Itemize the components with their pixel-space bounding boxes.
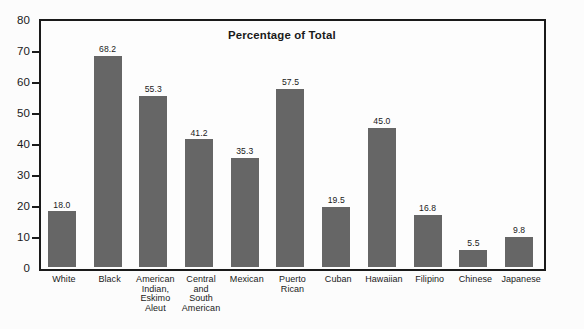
bar-group: 57.5 [268,19,314,267]
bar [322,207,350,267]
bar-value-label: 57.5 [282,77,299,87]
bar-value-label: 35.3 [236,146,253,156]
plot-area: 18.068.255.341.235.357.519.545.016.85.59… [39,19,546,271]
bar [414,215,442,267]
bar-value-label: 68.2 [99,44,116,54]
bar-value-label: 18.0 [53,200,70,210]
bar [139,96,167,267]
chart-title: Percentage of Total [228,29,336,41]
bar-group: 19.5 [313,19,359,267]
bar-group: 45.0 [359,19,405,267]
y-axis-tick-mark [32,175,39,177]
y-axis-tick-mark [32,113,39,115]
y-axis-tick-label: 0 [24,262,31,274]
bar-group: 18.0 [39,19,85,267]
x-axis-category-label: Japanese [492,275,550,285]
y-axis-tick-mark [32,82,39,84]
x-axis-labels: WhiteBlackAmericanIndian,EskimoAleutCent… [41,275,544,329]
y-axis: 01020304050607080 [0,19,39,271]
bar [276,89,304,267]
bars-layer: 18.068.255.341.235.357.519.545.016.85.59… [39,19,542,267]
y-axis-tick-label: 40 [17,138,30,150]
bar-value-label: 41.2 [190,128,207,138]
bar-value-label: 19.5 [328,195,345,205]
y-axis-tick-label: 50 [17,107,30,119]
bar-value-label: 9.8 [513,225,525,235]
x-axis-label-line: Japanese [492,275,550,285]
bar-chart: 01020304050607080 18.068.255.341.235.357… [0,0,584,329]
y-axis-tick-mark [32,237,39,239]
bar [459,250,487,267]
bar-group: 9.8 [496,19,542,267]
x-axis-label-line: Rican [264,285,322,295]
y-axis-tick-label: 70 [17,45,30,57]
x-axis-label-line: American [172,304,230,314]
bar-value-label: 45.0 [373,116,390,126]
bar [368,128,396,268]
y-axis-tick-mark [32,144,39,146]
bar [185,139,213,267]
bar [231,158,259,267]
bar-group: 41.2 [176,19,222,267]
y-axis-tick-label: 80 [17,14,30,26]
bar-group: 16.8 [405,19,451,267]
bar-group: 5.5 [451,19,497,267]
bar-group: 35.3 [222,19,268,267]
bar [505,237,533,267]
y-axis-tick-mark [32,51,39,53]
bar-value-label: 55.3 [145,84,162,94]
bar-group: 55.3 [130,19,176,267]
bar-value-label: 5.5 [467,238,479,248]
bar-group: 68.2 [85,19,131,267]
y-axis-tick-label: 60 [17,76,30,88]
bar [94,56,122,267]
y-axis-tick-mark [32,206,39,208]
y-axis-tick-label: 10 [17,231,30,243]
bar-value-label: 16.8 [419,203,436,213]
bar [48,211,76,267]
y-axis-tick-label: 30 [17,169,30,181]
y-axis-tick-label: 20 [17,200,30,212]
